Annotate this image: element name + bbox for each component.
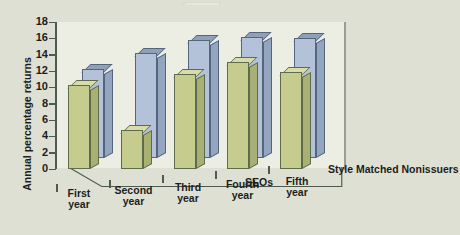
bar-side-face (90, 85, 99, 169)
x-tick-mark (268, 166, 270, 174)
bar-front-face (227, 62, 249, 169)
x-tick-mark (109, 180, 111, 188)
bar-side-face (302, 72, 311, 169)
category-label-line: year (177, 192, 199, 204)
category-label-line: year (68, 198, 90, 210)
category-label-1: Firstyear (53, 188, 105, 211)
category-label-line: year (286, 186, 308, 198)
category-label-line: year (232, 189, 254, 201)
bar-seos-2 (121, 130, 143, 169)
category-label-2: Secondyear (108, 185, 160, 208)
bar-side-face (196, 74, 205, 169)
bar-seos-1 (68, 85, 90, 169)
bar-front-face (280, 72, 302, 169)
x-tick-mark (215, 171, 217, 179)
bar-seos-5 (280, 72, 302, 169)
bar-side-face (263, 37, 272, 158)
bar-front-face (68, 85, 90, 169)
category-label-line: First (68, 187, 91, 199)
bar-side-face (316, 38, 325, 158)
bar-seos-3 (174, 74, 196, 169)
bar-front-face (121, 130, 143, 169)
bar-side-face (210, 40, 219, 158)
category-label-line: Fifth (286, 175, 309, 187)
category-label-5: Fifthyear (271, 176, 323, 199)
series-label-style-matched-nonissuers: Style Matched Nonissuers (328, 163, 459, 175)
bar-side-face (249, 62, 258, 169)
category-label-line: Third (175, 181, 201, 193)
chart-container: Annual percentage returns 02468101214161… (0, 0, 460, 235)
bar-front-face (174, 74, 196, 169)
bar-side-face (104, 69, 113, 158)
x-tick-mark (56, 184, 58, 192)
category-label-3: Thirdyear (162, 182, 214, 205)
category-label-line: Second (115, 184, 153, 196)
bar-side-face (143, 130, 152, 169)
bar-seos-4 (227, 62, 249, 169)
series-label-seos: SEOs (245, 176, 273, 188)
bar-side-face (157, 53, 166, 158)
category-label-line: year (123, 195, 145, 207)
x-tick-mark (162, 175, 164, 183)
